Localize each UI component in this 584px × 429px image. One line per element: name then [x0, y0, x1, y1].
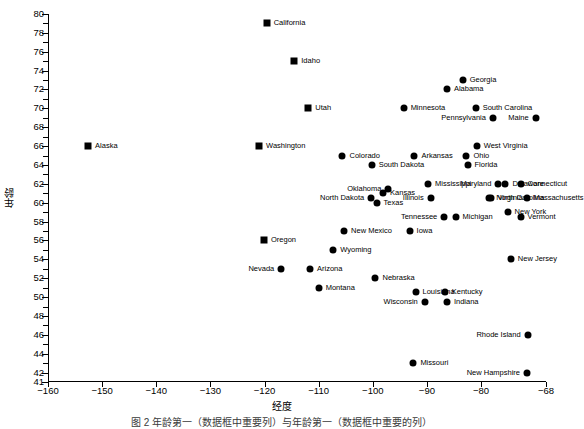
y-tick — [43, 269, 48, 270]
data-point-label: Colorado — [349, 152, 379, 160]
data-point-label: Maine — [508, 114, 528, 122]
x-axis-tick-labels: −160−150−140−130−120−110−100−90−80−68 — [48, 386, 546, 398]
y-axis-title: 年龄 — [2, 188, 17, 208]
circle-marker-icon — [306, 265, 313, 272]
square-marker-icon — [263, 20, 270, 27]
data-point-label: Vermont — [528, 213, 556, 221]
data-point-label: Rhode Island — [476, 331, 520, 339]
y-tick — [43, 212, 48, 213]
x-tick — [48, 382, 49, 387]
square-marker-icon — [291, 58, 298, 65]
data-point-label: Minnesota — [411, 104, 446, 112]
circle-marker-icon — [411, 152, 418, 159]
x-tick — [210, 382, 211, 387]
y-tick-major — [42, 297, 48, 298]
x-axis-title: 经度 — [0, 398, 563, 413]
circle-marker-icon — [472, 105, 479, 112]
data-point-label: Arizona — [317, 265, 342, 273]
x-tick-label: −110 — [308, 386, 329, 396]
circle-marker-icon — [410, 360, 417, 367]
data-point-label: Missouri — [420, 359, 448, 367]
circle-marker-icon — [504, 209, 511, 216]
y-tick-major — [42, 278, 48, 279]
y-tick — [43, 137, 48, 138]
circle-marker-icon — [463, 152, 470, 159]
y-tick-major — [42, 240, 48, 241]
data-point-label: Oklahoma — [347, 185, 381, 193]
data-point-label: Maryland — [461, 180, 492, 188]
data-point-label: Texas — [384, 199, 404, 207]
square-marker-icon — [305, 105, 312, 112]
circle-marker-icon — [443, 86, 450, 93]
x-tick-label: −160 — [37, 386, 58, 396]
y-tick-major — [42, 316, 48, 317]
y-tick-major — [42, 89, 48, 90]
circle-marker-icon — [406, 228, 413, 235]
data-point-label: Ohio — [473, 152, 489, 160]
square-marker-icon — [256, 143, 263, 150]
data-point-label: New Hampshire — [467, 369, 520, 377]
x-tick-label: −120 — [254, 386, 275, 396]
circle-marker-icon — [495, 180, 502, 187]
x-tick-label: −140 — [146, 386, 167, 396]
circle-marker-icon — [524, 369, 531, 376]
x-tick-label: −90 — [419, 386, 435, 396]
circle-marker-icon — [517, 180, 524, 187]
plot-area: CaliforniaIdahoGeorgiaAlabamaUtahMinneso… — [48, 14, 546, 382]
data-point-label: Georgia — [470, 76, 497, 84]
y-tick — [43, 42, 48, 43]
circle-marker-icon — [507, 256, 514, 263]
y-tick — [43, 231, 48, 232]
y-tick-major — [42, 52, 48, 53]
circle-marker-icon — [424, 180, 431, 187]
data-point-label: Illinois — [403, 194, 424, 202]
y-tick-major — [42, 222, 48, 223]
circle-marker-icon — [427, 195, 434, 202]
data-point-label: Massachusetts — [534, 194, 584, 202]
x-tick — [265, 382, 266, 387]
y-tick — [43, 363, 48, 364]
y-tick — [43, 325, 48, 326]
data-point-label: Louisiana — [423, 288, 455, 296]
circle-marker-icon — [368, 161, 375, 168]
x-tick-label: −100 — [362, 386, 383, 396]
data-point-label: Nebraska — [382, 274, 414, 282]
x-tick — [546, 382, 547, 387]
x-tick — [427, 382, 428, 387]
data-point-label: New Mexico — [351, 227, 392, 235]
x-tick — [102, 382, 103, 387]
data-point-label: Washington — [266, 142, 305, 150]
data-point-label: South Carolina — [483, 104, 533, 112]
y-tick-major — [42, 127, 48, 128]
circle-marker-icon — [523, 195, 530, 202]
data-point-label: Connecticut — [528, 180, 568, 188]
y-tick — [43, 193, 48, 194]
circle-marker-icon — [452, 213, 459, 220]
y-tick-major — [42, 354, 48, 355]
x-tick — [481, 382, 482, 387]
y-tick — [43, 174, 48, 175]
data-point-label: Idaho — [301, 57, 320, 65]
square-marker-icon — [85, 143, 92, 150]
circle-marker-icon — [278, 265, 285, 272]
x-axis-line — [48, 381, 546, 382]
y-tick-major — [42, 259, 48, 260]
circle-marker-icon — [441, 213, 448, 220]
y-tick-major — [42, 165, 48, 166]
circle-marker-icon — [517, 213, 524, 220]
circle-marker-icon — [339, 152, 346, 159]
data-point-label: Florida — [475, 161, 498, 169]
y-tick — [43, 61, 48, 62]
y-axis-line — [48, 14, 49, 382]
x-tick — [373, 382, 374, 387]
y-tick — [43, 118, 48, 119]
y-tick-major — [42, 14, 48, 15]
circle-marker-icon — [380, 190, 387, 197]
data-point-label: Iowa — [417, 227, 433, 235]
data-point-label: North Dakota — [320, 194, 364, 202]
y-tick-major — [42, 33, 48, 34]
circle-marker-icon — [341, 228, 348, 235]
y-tick — [43, 23, 48, 24]
y-axis-title-wrap: 年龄 — [2, 14, 16, 382]
x-tick — [319, 382, 320, 387]
